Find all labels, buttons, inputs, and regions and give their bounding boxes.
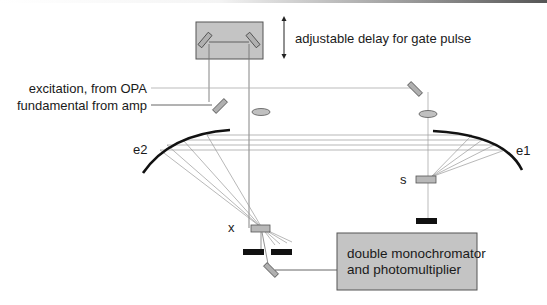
delay-arrow-icon	[282, 16, 287, 59]
beam-block-excitation	[416, 218, 437, 224]
detector-label: double monochromator and photomultiplier	[347, 246, 486, 278]
mirror-e2-label: e2	[133, 142, 147, 157]
sample-label: s	[400, 172, 407, 187]
lens-excitation	[419, 111, 437, 118]
mirror-e1-label: e1	[516, 143, 530, 158]
sample	[416, 176, 436, 183]
ellipsoidal-mirror-e1	[433, 131, 522, 170]
delay-label: adjustable delay for gate pulse	[295, 31, 471, 46]
crystal-label: x	[228, 220, 235, 235]
crystal	[251, 225, 270, 232]
excitation-label: excitation, from OPA	[29, 81, 147, 96]
excitation-mirror	[408, 82, 423, 97]
fundamental-label: fundamental from amp	[17, 98, 147, 113]
beam-block-left	[243, 249, 264, 255]
lens-gate	[252, 109, 270, 116]
detector-label-line2: and photomultiplier	[347, 262, 486, 278]
fundamental-mirror	[213, 99, 228, 114]
beam-block-right	[271, 249, 292, 255]
detector-label-line1: double monochromator	[347, 246, 486, 262]
